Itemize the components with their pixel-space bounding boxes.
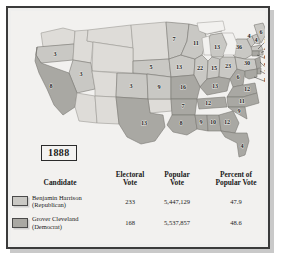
results-table-wrapper: Candidate Electoral Vote Popular Vote Pe… <box>11 171 265 233</box>
map-svg: .rep{fill:#c9c8c4;stroke:#7a7874;stroke-… <box>11 11 265 163</box>
label-new-hampshire: 4 <box>254 36 257 43</box>
label-colorado: 3 <box>129 82 132 89</box>
label-west-virginia: 6 <box>236 73 239 80</box>
callout-connecticut: 6 <box>264 53 265 60</box>
label-nevada: 3 <box>79 70 82 77</box>
label-south-carolina: 9 <box>237 107 240 114</box>
candidate-cell-cleveland: Grover Cleveland (Democrat) <box>11 212 109 233</box>
state-new-mexico-territory <box>95 96 119 124</box>
electoral-vote-value: 233 <box>109 191 151 212</box>
candidate-name: Benjamin Harrison <box>32 194 82 202</box>
label-florida: 4 <box>240 142 243 149</box>
label-alabama: 10 <box>210 118 216 125</box>
label-ohio: 23 <box>225 62 231 69</box>
state-indian-territory <box>148 99 172 113</box>
state-tennessee <box>197 97 227 109</box>
candidate-party: (Democrat) <box>32 223 78 231</box>
electoral-vote-value: 168 <box>109 212 151 233</box>
callout-delaware: 3 <box>264 68 265 75</box>
figure-inner: .rep{fill:#c9c8c4;stroke:#7a7874;stroke-… <box>11 11 265 244</box>
legend-swatch-republican <box>12 196 28 206</box>
candidate-party: (Republican) <box>32 201 82 209</box>
callout-maryland: 8 <box>264 76 265 83</box>
state-utah-territory <box>92 71 117 97</box>
label-missouri: 16 <box>180 83 186 90</box>
year-badge: 1888 <box>41 145 77 161</box>
label-oregon: 3 <box>53 50 56 57</box>
label-louisiana: 8 <box>179 119 182 126</box>
column-header-electoral-vote: Electoral Vote <box>109 171 151 191</box>
label-maine: 6 <box>259 28 262 35</box>
header-percent-line2: Popular Vote <box>205 179 265 187</box>
label-mississippi: 9 <box>199 118 202 125</box>
label-arkansas: 7 <box>181 102 184 109</box>
table-header-row: Candidate Electoral Vote Popular Vote Pe… <box>11 171 265 191</box>
label-indiana: 15 <box>211 64 217 71</box>
popular-vote-value: 5,447,129 <box>151 191 203 212</box>
label-texas: 13 <box>141 119 147 126</box>
us-electoral-map: .rep{fill:#c9c8c4;stroke:#7a7874;stroke-… <box>11 11 265 163</box>
candidate-cell-harrison: Benjamin Harrison (Republican) <box>11 191 109 212</box>
callout-massachusetts: 14 <box>264 37 265 44</box>
column-header-popular-vote: Popular Vote <box>151 171 203 191</box>
percent-popular-vote-value: 47.9 <box>203 191 265 212</box>
candidate-name: Grover Cleveland <box>32 215 78 223</box>
percent-popular-vote-value: 48.6 <box>203 212 265 233</box>
label-georgia: 12 <box>224 118 230 125</box>
column-header-candidate: Candidate <box>11 171 109 191</box>
callout-value-labels: 14 4 6 9 3 8 <box>264 37 265 83</box>
election-results-table: Candidate Electoral Vote Popular Vote Pe… <box>11 171 265 233</box>
lake-superior <box>197 21 225 34</box>
leader-line-maryland <box>254 77 264 81</box>
label-michigan: 13 <box>214 43 220 50</box>
label-wisconsin: 11 <box>193 39 199 46</box>
column-header-percent-popular-vote: Percent of Popular Vote <box>203 171 265 191</box>
legend-swatch-democrat <box>12 218 28 228</box>
label-new-york: 36 <box>236 43 242 50</box>
callout-rhode-island: 4 <box>264 45 265 52</box>
header-popular-line2: Vote <box>153 179 201 187</box>
label-kentucky: 13 <box>212 82 218 89</box>
label-minnesota: 7 <box>172 35 175 42</box>
label-north-carolina: 11 <box>239 97 245 104</box>
label-illinois: 22 <box>197 64 203 71</box>
label-nebraska: 5 <box>149 63 152 70</box>
header-electoral-line2: Vote <box>111 179 149 187</box>
state-arizona-territory <box>75 93 97 123</box>
label-kansas: 9 <box>157 83 160 90</box>
label-virginia: 12 <box>244 85 250 92</box>
state-dakota-territory <box>131 22 169 61</box>
election-map-figure: .rep{fill:#c9c8c4;stroke:#7a7874;stroke-… <box>6 6 270 249</box>
popular-vote-value: 5,537,857 <box>151 212 203 233</box>
label-california: 8 <box>49 82 52 89</box>
label-vermont: 4 <box>247 32 250 39</box>
label-pennsylvania: 30 <box>244 59 250 66</box>
callout-new-jersey: 9 <box>264 61 265 68</box>
label-tennessee: 12 <box>205 99 211 106</box>
label-iowa: 13 <box>176 63 182 70</box>
table-row: Grover Cleveland (Democrat) 168 5,537,85… <box>11 212 265 233</box>
table-row: Benjamin Harrison (Republican) 233 5,447… <box>11 191 265 212</box>
state-florida <box>221 131 249 157</box>
header-candidate-line1: Candidate <box>44 178 77 187</box>
